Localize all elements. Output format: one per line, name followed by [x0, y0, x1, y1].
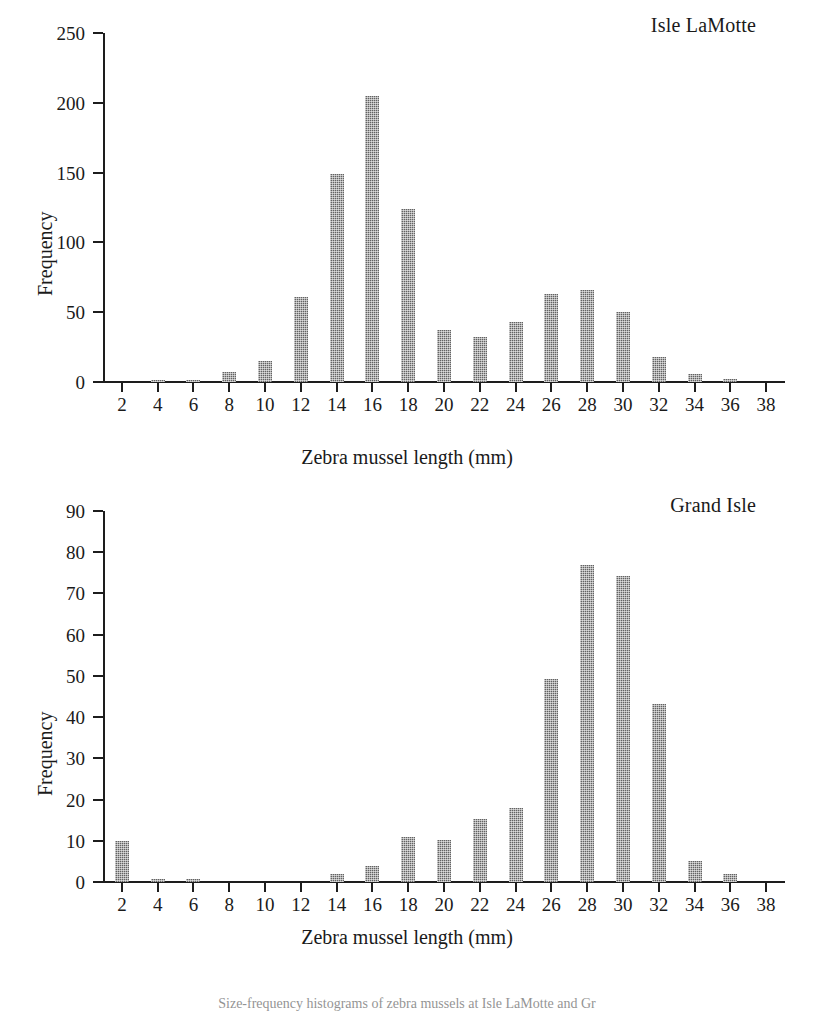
x-tick-bottom-4: 4 — [157, 883, 159, 892]
x-tick-label-top-36: 36 — [721, 395, 740, 414]
x-tick-bottom-30: 30 — [622, 883, 624, 892]
bar — [151, 380, 165, 382]
bar — [186, 879, 200, 882]
bar — [473, 819, 487, 882]
x-tick-bottom-2: 2 — [121, 883, 123, 892]
y-tick-bottom-80: 80 — [93, 551, 103, 553]
bar — [688, 861, 702, 882]
y-axis-line-bottom — [103, 511, 105, 882]
x-tick-top-32: 32 — [658, 383, 660, 392]
x-tick-bottom-10: 10 — [264, 883, 266, 892]
figure-caption: Size-frequency histograms of zebra musse… — [0, 996, 814, 1013]
bar — [473, 337, 487, 382]
x-tick-bottom-16: 16 — [371, 883, 373, 892]
x-tick-bottom-32: 32 — [658, 883, 660, 892]
y-tick-bottom-90: 90 — [93, 510, 103, 512]
x-tick-label-top-38: 38 — [757, 395, 776, 414]
y-tick-bottom-0: 0 — [93, 881, 103, 883]
x-tick-label-bottom-26: 26 — [542, 895, 561, 914]
y-tick-label-bottom-20: 20 — [66, 790, 85, 809]
bar — [580, 290, 594, 382]
y-tick-label-bottom-50: 50 — [66, 666, 85, 685]
y-tick-label-top-0: 0 — [76, 373, 86, 392]
x-tick-top-8: 8 — [228, 383, 230, 392]
x-axis-title-bottom: Zebra mussel length (mm) — [0, 926, 814, 949]
x-tick-top-4: 4 — [157, 383, 159, 392]
y-tick-label-top-250: 250 — [57, 24, 86, 43]
bar — [401, 209, 415, 382]
x-tick-bottom-38: 38 — [765, 883, 767, 892]
y-tick-label-top-100: 100 — [57, 233, 86, 252]
x-tick-label-top-34: 34 — [685, 395, 704, 414]
x-tick-label-top-18: 18 — [399, 395, 418, 414]
x-axis-title-top: Zebra mussel length (mm) — [0, 446, 814, 469]
x-tick-label-top-30: 30 — [613, 395, 632, 414]
bar — [509, 808, 523, 882]
x-tick-bottom-34: 34 — [694, 883, 696, 892]
x-tick-label-top-32: 32 — [649, 395, 668, 414]
y-tick-bottom-20: 20 — [93, 799, 103, 801]
chart-panel-grand-isle: Grand Isle 0102030405060708090 246810121… — [0, 480, 814, 980]
x-tick-top-16: 16 — [371, 383, 373, 392]
zebra-mussel-figure: Isle LaMotte 050100150200250 24681012141… — [0, 0, 814, 1013]
y-tick-bottom-50: 50 — [93, 675, 103, 677]
x-tick-top-38: 38 — [765, 383, 767, 392]
y-tick-top-0: 0 — [93, 381, 103, 383]
x-tick-label-bottom-20: 20 — [435, 895, 454, 914]
x-tick-top-30: 30 — [622, 383, 624, 392]
x-tick-top-12: 12 — [300, 383, 302, 392]
x-tick-top-24: 24 — [515, 383, 517, 392]
x-tick-label-bottom-10: 10 — [256, 895, 275, 914]
bar — [365, 96, 379, 382]
x-tick-top-34: 34 — [694, 383, 696, 392]
y-tick-bottom-10: 10 — [93, 840, 103, 842]
x-tick-label-top-28: 28 — [578, 395, 597, 414]
y-tick-label-bottom-0: 0 — [76, 873, 86, 892]
bar — [544, 679, 558, 882]
x-tick-label-bottom-2: 2 — [117, 895, 127, 914]
bar — [401, 837, 415, 882]
y-tick-bottom-60: 60 — [93, 634, 103, 636]
x-tick-label-bottom-16: 16 — [363, 895, 382, 914]
y-tick-label-bottom-70: 70 — [66, 584, 85, 603]
x-tick-top-26: 26 — [550, 383, 552, 392]
x-tick-label-bottom-14: 14 — [327, 895, 346, 914]
x-tick-label-bottom-22: 22 — [470, 895, 489, 914]
x-tick-label-top-26: 26 — [542, 395, 561, 414]
plot-area-bottom: 0102030405060708090 24681012141618202224… — [104, 511, 784, 882]
x-tick-label-top-14: 14 — [327, 395, 346, 414]
x-tick-label-top-16: 16 — [363, 395, 382, 414]
y-tick-label-bottom-60: 60 — [66, 625, 85, 644]
bar — [652, 704, 666, 882]
bar — [616, 576, 630, 882]
y-tick-label-bottom-10: 10 — [66, 831, 85, 850]
x-tick-top-14: 14 — [336, 383, 338, 392]
x-tick-top-6: 6 — [192, 383, 194, 392]
bar — [437, 840, 451, 882]
x-tick-bottom-6: 6 — [192, 883, 194, 892]
y-tick-top-50: 50 — [93, 311, 103, 313]
x-tick-label-bottom-34: 34 — [685, 895, 704, 914]
bar — [365, 866, 379, 882]
bar — [330, 874, 344, 882]
x-tick-label-bottom-6: 6 — [189, 895, 199, 914]
x-tick-bottom-28: 28 — [586, 883, 588, 892]
x-tick-label-top-20: 20 — [435, 395, 454, 414]
bar — [544, 294, 558, 382]
x-tick-label-bottom-24: 24 — [506, 895, 525, 914]
y-tick-top-250: 250 — [93, 32, 103, 34]
x-tick-bottom-14: 14 — [336, 883, 338, 892]
bar — [294, 297, 308, 382]
y-tick-top-100: 100 — [93, 241, 103, 243]
bar — [688, 374, 702, 382]
x-tick-bottom-20: 20 — [443, 883, 445, 892]
plot-area-top: 050100150200250 246810121416182022242628… — [104, 33, 784, 382]
bar — [509, 322, 523, 382]
y-tick-label-bottom-90: 90 — [66, 502, 85, 521]
bar — [330, 174, 344, 382]
bar — [437, 330, 451, 382]
y-tick-bottom-30: 30 — [93, 757, 103, 759]
x-tick-top-22: 22 — [479, 383, 481, 392]
bar — [222, 372, 236, 382]
bar — [616, 312, 630, 382]
